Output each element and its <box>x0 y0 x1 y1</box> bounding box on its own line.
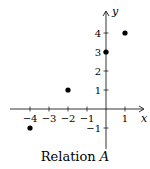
y-tick-label: −1 <box>86 123 101 134</box>
data-point <box>103 49 108 54</box>
y-axis-label: y <box>111 5 119 18</box>
chart-caption: Relation A <box>0 149 150 164</box>
data-point <box>65 87 70 92</box>
caption-variable: A <box>100 149 109 164</box>
x-tick-label: −4 <box>23 113 38 124</box>
data-point <box>122 30 127 35</box>
y-tick-label: 2 <box>95 66 101 77</box>
caption-prefix: Relation <box>41 149 100 164</box>
scatter-plot: xy−4−3−2−11−11234 <box>0 0 150 150</box>
x-axis-label: x <box>141 112 148 125</box>
x-tick-label: −3 <box>42 113 57 124</box>
data-point <box>27 125 32 130</box>
x-tick-label: −2 <box>61 113 76 124</box>
y-tick-label: 1 <box>95 85 101 96</box>
x-tick-label: 1 <box>122 113 128 124</box>
y-tick-label: 3 <box>95 47 101 58</box>
y-tick-label: 4 <box>95 28 101 39</box>
